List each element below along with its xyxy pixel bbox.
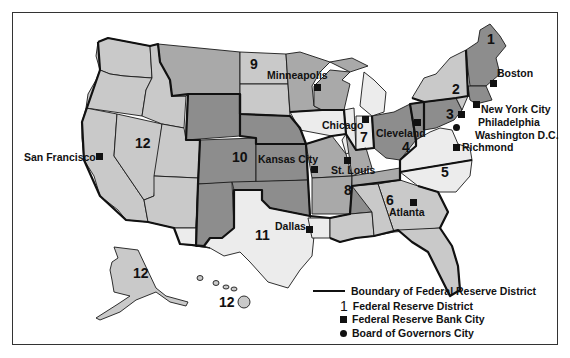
bank-city-marker-new-york <box>473 101 480 108</box>
district-label-3: 3 <box>446 107 454 121</box>
state-oregon <box>86 70 152 116</box>
district-label-5: 5 <box>441 165 449 179</box>
square-marker-icon <box>340 316 347 323</box>
city-label-cleveland: Cleveland <box>376 128 426 139</box>
governors-city-marker-washington <box>453 124 460 131</box>
bank-city-marker-san-francisco <box>96 153 103 160</box>
city-label-philadelphia: Philadelphia <box>478 117 540 128</box>
district-label-8: 8 <box>344 183 352 197</box>
city-label-richmond: Richmond <box>462 142 513 153</box>
district-1-region <box>466 24 506 104</box>
city-label-st-louis: St. Louis <box>331 165 375 176</box>
district-label-12-alaska: 12 <box>133 266 149 280</box>
legend-bank-city-label: Federal Reserve Bank City <box>352 313 484 325</box>
district-label-12: 12 <box>135 136 151 150</box>
city-label-boston: Boston <box>497 68 533 79</box>
district-label-4: 4 <box>402 140 410 154</box>
state-southern-new-england <box>468 86 492 104</box>
bank-city-marker-richmond <box>453 144 460 151</box>
city-label-dallas: Dallas <box>275 221 306 232</box>
district-label-6: 6 <box>386 193 394 207</box>
district-label-9: 9 <box>250 57 258 71</box>
bank-city-marker-boston <box>490 80 497 87</box>
city-label-kansas-city: Kansas City <box>258 154 318 165</box>
district-label-7: 7 <box>360 130 368 144</box>
bank-city-marker-cleveland <box>414 119 421 126</box>
circle-marker-icon <box>340 330 347 337</box>
state-south-dakota <box>240 84 290 116</box>
city-label-washington: Washington D.C. <box>475 130 559 141</box>
legend-row-boundary: Boundary of Federal Reserve District <box>313 285 536 297</box>
legend-boundary-label: Boundary of Federal Reserve District <box>351 285 536 297</box>
state-michigan-up <box>330 58 368 72</box>
bank-city-marker-kansas-city <box>311 166 318 173</box>
city-label-new-york: New York City <box>481 104 551 115</box>
us-map <box>0 0 570 358</box>
bank-city-marker-dallas <box>306 226 313 233</box>
state-alaska <box>96 247 188 320</box>
district-label-11: 11 <box>255 228 270 242</box>
bank-city-marker-atlanta <box>410 199 417 206</box>
district-label-1: 1 <box>487 32 495 46</box>
city-label-san-francisco: San Francisco <box>24 152 96 163</box>
legend-row-governors-city: Board of Governors City <box>313 327 474 339</box>
legend-row-bank-city: Federal Reserve Bank City <box>313 313 484 325</box>
district-label-12-hawaii: 12 <box>219 295 235 309</box>
boundary-line-icon <box>313 290 345 293</box>
legend-governors-city-label: Board of Governors City <box>352 327 474 339</box>
state-wyoming <box>186 94 240 140</box>
legend-district-label: Federal Reserve District <box>353 300 473 312</box>
city-label-minneapolis: Minneapolis <box>267 70 328 81</box>
state-michigan <box>360 72 386 116</box>
city-label-chicago: Chicago <box>322 120 363 131</box>
bank-city-marker-st-louis <box>344 157 351 164</box>
district-label-2: 2 <box>452 82 460 96</box>
bank-city-marker-minneapolis <box>314 84 321 91</box>
city-label-atlanta: Atlanta <box>389 207 425 218</box>
district-label-10: 10 <box>232 150 248 164</box>
bank-city-marker-philadelphia <box>458 111 465 118</box>
legend-row-district: 1 Federal Reserve District <box>313 298 473 314</box>
district-number-icon: 1 <box>340 298 348 314</box>
